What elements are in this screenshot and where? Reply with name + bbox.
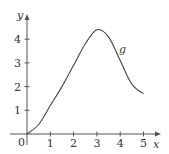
- curve-label: g: [119, 43, 126, 56]
- y-tick-label: 2: [14, 81, 21, 94]
- x-axis-label: x: [153, 138, 160, 151]
- y-axis-label: y: [16, 9, 24, 22]
- y-tick-label: 3: [14, 57, 21, 70]
- x-tick-label: 1: [47, 137, 54, 150]
- chart-canvas: 12345 1234 x y 0 g: [0, 0, 169, 154]
- x-tick-label: 4: [117, 137, 124, 150]
- x-tick-label: 5: [140, 137, 147, 150]
- x-tick-label: 2: [70, 137, 77, 150]
- x-tick-label: 3: [93, 137, 100, 150]
- y-tick-label: 1: [14, 104, 21, 117]
- y-tick-label: 4: [14, 33, 21, 46]
- origin-label: 0: [18, 136, 25, 149]
- x-axis-arrow-icon: [155, 132, 161, 137]
- axes: [10, 14, 161, 145]
- y-axis-arrow-icon: [25, 14, 30, 20]
